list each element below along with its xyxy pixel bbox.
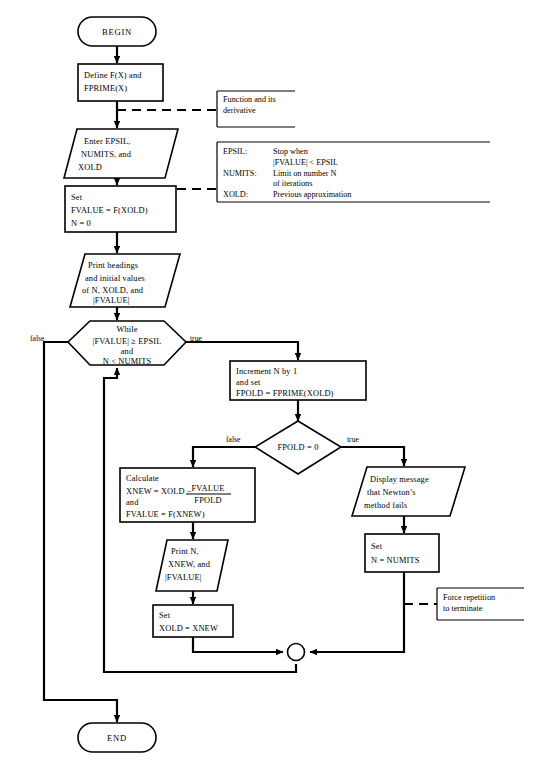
node-displayfail-line1: Display message [370,475,429,484]
annotation-params-desc-0a: Stop when [273,147,308,156]
annotation-params-desc-1b: of iterations [273,179,312,188]
annotation-function-line2: derivative [223,106,256,115]
node-set-xold[interactable]: Set XOLD = XNEW [153,605,233,637]
node-calculate-line4: FVALUE = F(XNEW) [126,510,205,519]
connector-setxold-to-merge [193,637,283,652]
node-setnumits-line2: N = NUMITS [371,556,420,565]
edge-label-while-false: false [30,334,45,343]
node-while-line4: N < NUMITS [103,357,152,366]
node-setxold-line2: XOLD = XNEW [159,624,218,633]
node-setfvalue-line2: FVALUE = F(XOLD) [71,206,148,215]
node-increment-line2: and set [236,378,261,387]
node-setfvalue-line1: Set [71,193,83,202]
node-while-line3: and [121,347,134,356]
flowchart-svg: Function and its derivative EPSIL: Stop … [0,0,538,768]
annotation-force-line2: to terminate [443,604,483,613]
node-calculate-line2-prefix: XNEW = XOLD − [126,487,192,496]
connector-while-true-to-increment [186,342,298,360]
node-printiter-line2: XNEW, and [168,560,211,569]
annotation-params-note: EPSIL: Stop when |FVALUE| < EPSIL NUMITS… [217,142,490,202]
node-increment-line1: Increment N by 1 [236,367,297,376]
node-enter-line3: XOLD [78,163,102,172]
node-print-headings[interactable]: Print headings and initial values of N, … [70,254,180,307]
node-printiter-line3: |FVALUE| [165,573,202,582]
node-end[interactable]: END [78,723,156,752]
node-calculate[interactable]: Calculate XNEW = XOLD − FVALUE FPOLD and… [120,468,255,522]
node-while-line2: |FVALUE| ≥ EPSIL [93,337,162,346]
node-printheadings-line3: of N, XOLD, and [82,286,144,295]
node-set-numits[interactable]: Set N = NUMITS [365,534,439,572]
annotation-params-desc-1a: Limit on number N [273,169,337,178]
connector-fpold-true-to-displayfail [341,447,404,466]
edge-label-while-true: true [190,334,202,343]
node-printheadings-line1: Print headings [88,261,138,270]
annotation-params-term-0: EPSIL: [223,147,247,156]
node-display-failure[interactable]: Display message that Newton’s method fai… [352,467,465,516]
connector-setnumits-to-merge [310,572,404,652]
annotation-function-note: Function and its derivative [217,91,295,127]
node-setxold-line1: Set [159,611,171,620]
annotation-force-note: Force repetition to terminate [437,588,524,620]
annotation-params-desc-0b: |FVALUE| < EPSIL [273,158,338,167]
annotation-force-line1: Force repetition [443,593,495,602]
flowchart-canvas: Function and its derivative EPSIL: Stop … [0,0,538,768]
annotation-params-desc-2a: Previous approximation [273,190,351,199]
edge-label-fpold-false: false [226,435,241,444]
node-calculate-line3: and [126,498,139,507]
node-increment-line3: FPOLD = FPRIME(XOLD) [236,389,334,398]
node-define-line1: Define F(X) and [84,71,142,80]
node-print-iteration[interactable]: Print N, XNEW, and |FVALUE| [156,540,228,591]
annotation-params-term-2: XOLD: [223,190,248,199]
node-while-line1: While [116,325,137,334]
node-define-line2: FPRIME(X) [84,84,127,93]
node-begin[interactable]: BEGIN [78,17,156,46]
node-printheadings-line2: and initial values [85,274,145,283]
node-while-decision[interactable]: While |FVALUE| ≥ EPSIL and N < NUMITS [68,321,186,366]
node-enter-line1: Enter EPSIL, [84,137,130,146]
annotation-function-line1: Function and its [223,95,276,104]
annotation-params-term-1: NUMITS: [223,169,257,178]
node-calculate-line1: Calculate [126,474,159,483]
node-displayfail-line3: method fails [364,501,407,510]
node-printiter-line1: Print N, [171,547,199,556]
node-enter-line2: NUMITS, and [81,150,132,159]
node-calculate-fraction-denominator: FPOLD [194,496,221,505]
node-enter-inputs[interactable]: Enter EPSIL, NUMITS, and XOLD [64,129,178,178]
connector-while-false-to-end [44,342,117,722]
node-begin-label: BEGIN [102,27,132,37]
node-fpold-decision[interactable]: FPOLD = 0 [255,421,341,474]
node-merge-connector[interactable] [288,644,305,661]
node-setnumits-line1: Set [371,542,383,551]
node-end-label: END [107,733,127,743]
node-fpold-label: FPOLD = 0 [278,443,319,452]
node-printheadings-line4: |FVALUE| [93,296,130,305]
node-displayfail-line2: that Newton’s [367,488,416,497]
node-calculate-fraction-numerator: FVALUE [192,484,225,493]
node-set-fvalue[interactable]: Set FVALUE = F(XOLD) N = 0 [65,186,176,232]
node-setfvalue-line3: N = 0 [71,219,91,228]
edge-label-fpold-true: true [347,435,359,444]
node-define-functions[interactable]: Define F(X) and FPRIME(X) [78,64,163,101]
node-increment[interactable]: Increment N by 1 and set FPOLD = FPRIME(… [230,361,366,400]
connector-fpold-false-to-calculate [193,447,255,467]
